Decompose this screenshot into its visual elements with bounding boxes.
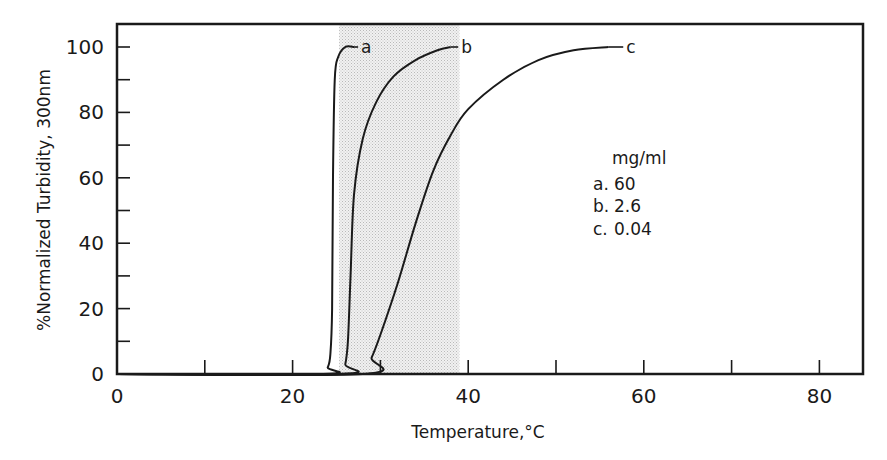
- x-tick-label: 60: [631, 384, 656, 408]
- y-tick-label: 100: [66, 35, 104, 59]
- y-tick-label: 60: [79, 166, 104, 190]
- chart-canvas: abc 020406080020406080100 Temperature,°C…: [0, 0, 887, 460]
- x-axis-title: Temperature,°C: [410, 422, 544, 442]
- curve-label-a: a: [361, 37, 371, 57]
- legend-value-b: 2.6: [614, 196, 641, 216]
- curve-label-c: c: [626, 37, 635, 57]
- x-tick-label: 0: [111, 384, 124, 408]
- legend-key-c: c.: [593, 219, 608, 239]
- y-tick-label: 20: [79, 297, 104, 321]
- axis-ticks: [117, 47, 819, 374]
- y-axis-title: %Normalized Turbidity, 300nm: [34, 69, 54, 331]
- curve-label-b: b: [461, 37, 472, 57]
- legend-title: mg/ml: [612, 148, 666, 168]
- y-tick-label: 0: [91, 362, 104, 386]
- x-tick-label: 20: [280, 384, 305, 408]
- legend-key-b: b.: [593, 196, 609, 216]
- curve-a: [117, 46, 354, 374]
- y-tick-label: 80: [79, 100, 104, 124]
- legend-key-a: a.: [593, 174, 609, 194]
- shaded-region: [339, 24, 459, 374]
- legend-value-a: 60: [614, 174, 636, 194]
- legend-value-c: 0.04: [614, 219, 652, 239]
- legend: mg/ml a. 60 b. 2.6 c. 0.04: [593, 148, 666, 239]
- turbidity-chart: abc 020406080020406080100 Temperature,°C…: [0, 0, 887, 460]
- x-tick-label: 40: [455, 384, 480, 408]
- plot-frame: [117, 24, 863, 374]
- y-tick-label: 40: [79, 231, 104, 255]
- shaded-temperature-band: [339, 24, 459, 374]
- x-tick-label: 80: [807, 384, 832, 408]
